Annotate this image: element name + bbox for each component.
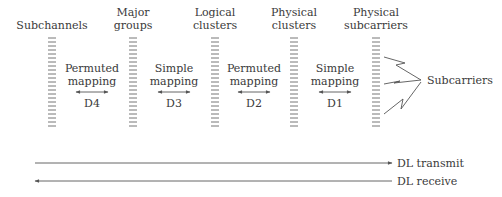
column-label-line: Major xyxy=(114,6,153,19)
dash-column-physical-subcarriers xyxy=(372,38,380,126)
column-label-major-groups: Majorgroups xyxy=(114,6,153,32)
column-label-line: clusters xyxy=(193,19,237,32)
column-label-line: clusters xyxy=(271,19,317,32)
mapping-label-line: mapping xyxy=(311,75,360,88)
dash-column-logical-clusters xyxy=(211,38,219,126)
column-label-logical-clusters: Logicalclusters xyxy=(193,6,237,32)
mapping-code-d4: D4 xyxy=(84,97,100,110)
subcarrier-bolts xyxy=(384,57,421,114)
mapping-label-line: Simple xyxy=(311,62,360,75)
dash-column-major-groups xyxy=(129,38,137,126)
mapping-label-line: mapping xyxy=(65,75,119,88)
dl-transmit-label: DL transmit xyxy=(397,157,464,170)
mapping-label-line: Simple xyxy=(150,62,199,75)
column-label-subchannels: Subchannels xyxy=(16,6,87,32)
mapping-code-d2: D2 xyxy=(246,97,262,110)
column-label-line xyxy=(16,6,87,19)
bolt-middle xyxy=(384,80,421,84)
mapping-label-d2: Permutedmapping xyxy=(227,62,281,88)
bolt-lower xyxy=(384,82,421,114)
dl-receive-label: DL receive xyxy=(397,175,457,188)
dash-column-subchannels xyxy=(48,38,56,126)
column-label-physical-subcarriers: Physicalsubcarriers xyxy=(344,6,408,32)
mapping-label-d4: Permutedmapping xyxy=(65,62,119,88)
column-label-line: Physical xyxy=(271,6,317,19)
bolt-upper xyxy=(384,57,421,80)
column-label-line: Subchannels xyxy=(16,19,87,32)
dash-column-physical-clusters xyxy=(290,38,298,126)
mapping-label-line: Permuted xyxy=(65,62,119,75)
mapping-label-line: Permuted xyxy=(227,62,281,75)
mapping-label-line: mapping xyxy=(150,75,199,88)
column-label-line: Logical xyxy=(193,6,237,19)
column-label-line: groups xyxy=(114,19,153,32)
mapping-code-d3: D3 xyxy=(166,97,182,110)
column-label-physical-clusters: Physicalclusters xyxy=(271,6,317,32)
mapping-label-d3: Simplemapping xyxy=(150,62,199,88)
mapping-code-d1: D1 xyxy=(327,97,343,110)
mapping-label-d1: Simplemapping xyxy=(311,62,360,88)
subcarriers-label: Subcarriers xyxy=(427,74,493,87)
column-label-line: subcarriers xyxy=(344,19,408,32)
mapping-label-line: mapping xyxy=(227,75,281,88)
column-label-line: Physical xyxy=(344,6,408,19)
